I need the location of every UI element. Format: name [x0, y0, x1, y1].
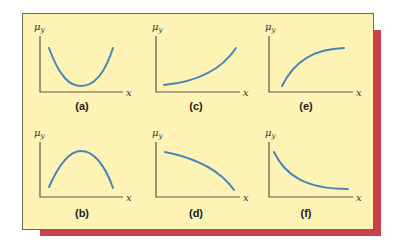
panel-c: μy x (c) — [152, 21, 249, 112]
panel-label: (d) — [189, 207, 203, 219]
curve-inverted-u — [49, 151, 113, 188]
y-axis-label: μy — [152, 127, 164, 140]
curve-u-shape — [49, 48, 113, 86]
y-axis-label: μy — [34, 127, 46, 140]
x-axis-label: x — [243, 192, 249, 203]
x-axis-label: x — [356, 192, 362, 203]
curve-increasing-convex — [164, 48, 236, 85]
panel-f: μy x (f) — [265, 127, 362, 219]
panel-label: (f) — [301, 207, 312, 219]
curve-increasing-concave — [282, 48, 344, 86]
x-axis-label: x — [126, 87, 132, 98]
panel-e: μy x (e) — [265, 21, 362, 112]
curve-decreasing-concave — [165, 152, 234, 190]
panel-b: μy x (b) — [34, 127, 132, 219]
panel-label: (a) — [75, 100, 89, 112]
axes — [40, 36, 123, 92]
axes — [156, 142, 240, 197]
panel-d: μy x (d) — [152, 127, 249, 219]
x-axis-label: x — [126, 192, 132, 203]
x-axis-label: x — [243, 87, 249, 98]
axes — [269, 36, 353, 92]
panel-label: (b) — [75, 207, 89, 219]
panel-label: (e) — [299, 100, 313, 112]
panel-a: μy x (a) — [34, 21, 132, 112]
y-axis-label: μy — [265, 127, 277, 140]
y-axis-label: μy — [34, 21, 46, 34]
y-axis-label: μy — [152, 21, 164, 34]
x-axis-label: x — [356, 87, 362, 98]
y-axis-label: μy — [265, 21, 277, 34]
curve-decreasing-convex — [274, 152, 348, 189]
panel-label: (c) — [189, 100, 203, 112]
curve-shapes-figure: μy x (a) μy x (c) μy x (e) μy x (b) μy x… — [0, 0, 399, 247]
